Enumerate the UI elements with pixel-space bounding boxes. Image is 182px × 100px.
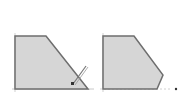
after-panel: [100, 33, 177, 92]
diagram-canvas: [0, 0, 182, 100]
before-panel: [12, 33, 94, 92]
end-marker-dot: [175, 88, 177, 90]
after-polygon: [103, 36, 163, 89]
before-polygon: [15, 36, 88, 89]
